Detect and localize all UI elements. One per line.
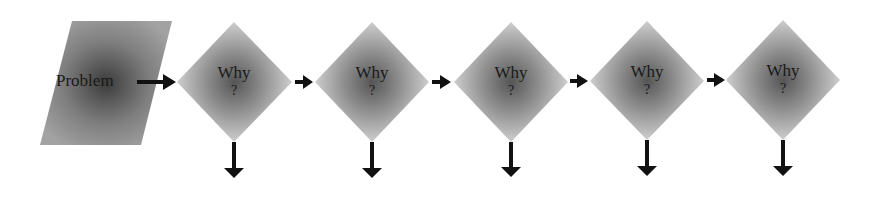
why-text: Why — [342, 62, 402, 84]
why-label-5: Why ? — [753, 60, 813, 96]
why-text: Why — [204, 62, 264, 84]
question-mark-text: ? — [342, 84, 402, 98]
why-label-4: Why ? — [617, 61, 677, 97]
why-label-1: Why ? — [204, 62, 264, 98]
arrow-right-icon — [432, 75, 451, 89]
arrow-right-icon — [295, 75, 313, 89]
why-label-3: Why ? — [481, 62, 541, 98]
question-mark-text: ? — [617, 83, 677, 97]
arrow-down-icon — [224, 142, 244, 178]
problem-label: Problem — [56, 71, 156, 91]
why-text: Why — [617, 61, 677, 83]
why-text: Why — [753, 60, 813, 82]
question-mark-text: ? — [481, 84, 541, 98]
diagram-canvas — [0, 0, 891, 203]
arrow-down-icon — [773, 140, 793, 176]
arrow-down-icon — [637, 140, 657, 176]
why-label-2: Why ? — [342, 62, 402, 98]
why-text: Why — [481, 62, 541, 84]
question-mark-text: ? — [753, 82, 813, 96]
arrow-down-icon — [501, 142, 521, 177]
arrow-right-icon — [707, 73, 725, 87]
arrow-down-icon — [362, 142, 382, 178]
question-mark-text: ? — [204, 84, 264, 98]
five-whys-diagram: Problem Why ? Why ? Why ? Why ? Why ? — [0, 0, 891, 203]
arrow-right-icon — [570, 74, 588, 88]
